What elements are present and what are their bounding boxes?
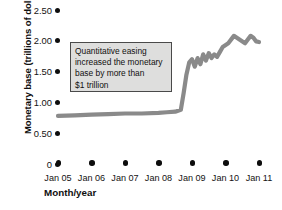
x-tick-dot [89,160,95,166]
annotation-line: Quantitative easing [75,46,171,57]
x-tick-dot [223,160,229,166]
annotation-line: base by more than [75,68,171,79]
x-tick-dot [156,160,162,166]
annotation-line: $1 trillion [75,80,171,91]
x-tick-label: Jan 11 [237,173,281,183]
chart-figure: Monetary base (trillions of dollars) 2.5… [0,0,282,210]
x-tick-dot [190,160,196,166]
x-axis-title: Month/year [44,187,96,198]
x-tick-dot [123,160,129,166]
annotation-box: Quantitative easing increased the moneta… [70,42,172,92]
annotation-line: increased the monetary [75,57,171,68]
x-tick-dot [257,160,263,166]
x-tick-dot [56,160,62,166]
